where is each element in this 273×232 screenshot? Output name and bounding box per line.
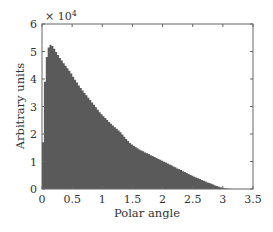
y-multiplier-label: × 104 — [45, 9, 77, 23]
x-tick-label: 2 — [159, 193, 166, 206]
y-tick-label: 1 — [30, 156, 37, 169]
y-axis-label: Arbitrary units — [13, 63, 27, 151]
x-tick-label: 2.5 — [184, 193, 202, 206]
y-tick-label: 6 — [30, 18, 37, 31]
histogram-bars — [42, 45, 231, 189]
histogram-fill — [42, 45, 231, 189]
y-tick-label: 2 — [30, 128, 37, 141]
histogram-chart: 00.511.522.533.5 0123456 × 104 Polar ang… — [0, 0, 273, 232]
x-tick-label: 0 — [39, 193, 46, 206]
y-tick-label: 0 — [30, 183, 37, 196]
x-tick-label: 0.5 — [63, 193, 81, 206]
x-tick-label: 3 — [219, 193, 226, 206]
x-tick-label: 1 — [99, 193, 106, 206]
y-tick-label: 4 — [30, 73, 37, 86]
y-tick-label: 3 — [30, 101, 37, 114]
x-tick-label: 3.5 — [244, 193, 262, 206]
y-tick-label: 5 — [30, 46, 37, 59]
x-axis-label: Polar angle — [114, 206, 180, 220]
x-tick-label: 1.5 — [124, 193, 142, 206]
